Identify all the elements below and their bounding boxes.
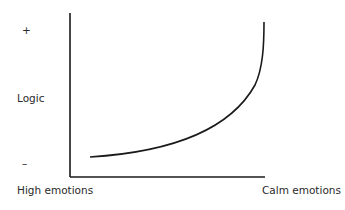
y-axis-label: Logic (17, 92, 44, 104)
logic-curve (90, 22, 264, 157)
x-axis-label-right: Calm emotions (262, 184, 341, 196)
y-tick-plus: + (22, 24, 31, 36)
logic-emotions-diagram (0, 0, 345, 210)
y-tick-minus: – (22, 157, 27, 169)
x-axis-label-left: High emotions (17, 184, 93, 196)
